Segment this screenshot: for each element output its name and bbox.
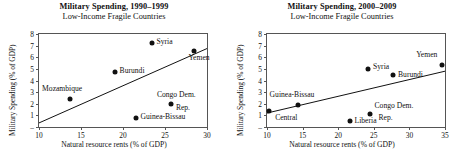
chart-1-y-tick-label: 2 — [17, 99, 34, 108]
chart-2-subtitle: Low-Income Fragile Countries — [228, 12, 456, 22]
chart-2-x-tick-mark — [374, 127, 375, 130]
data-point-central — [267, 108, 272, 113]
chart-2-x-tick-label: 20 — [334, 131, 341, 140]
chart-panel-1990-1999: Military Spending, 1990–1999 Low-Income … — [0, 0, 228, 159]
chart-2-x-tick-label: 30 — [406, 131, 413, 140]
chart-2-y-axis-label: Military Spending (% of GDP) — [236, 44, 245, 136]
chart-1-y-tick-label: 1 — [17, 111, 34, 120]
data-point-label-liberia: Liberia — [355, 117, 377, 125]
data-point-label-yemen: Yemen — [416, 51, 437, 59]
data-point-burundi — [112, 70, 117, 75]
chart-1-y-tick-label: – — [17, 123, 34, 132]
chart-2-x-tick-mark — [409, 127, 410, 130]
data-point-label-guinea-bissau: Guinea-Bissau — [270, 91, 315, 99]
data-point-guinea-bissau — [133, 116, 138, 121]
data-point-syria — [149, 41, 154, 46]
data-point-mozambique — [68, 97, 73, 102]
chart-1-y-axis-label: Military Spending (% of GDP) — [8, 44, 17, 136]
chart-1-x-tick-mark — [165, 127, 166, 130]
data-point-label-burundi: Burundi — [120, 67, 145, 75]
chart-2-y-tick-label: 2 — [245, 99, 262, 108]
chart-1-y-tick-label: 7 — [17, 41, 34, 50]
chart-2-x-axis-label: Natural resource rents (% of GDP) — [228, 140, 456, 149]
chart-2-x-tick-label: 15 — [299, 131, 306, 140]
chart-1-x-tick-label: 25 — [161, 131, 168, 140]
chart-2-y-tick-label: 8 — [245, 30, 262, 39]
chart-2-y-tick-label: 1 — [245, 111, 262, 120]
chart-2-plot-area: –12345678101520253035CentralGuinea-Bissa… — [266, 33, 446, 128]
data-point-label-mozambique: Mozambique — [42, 85, 82, 93]
chart-2-y-tick-label: 7 — [245, 41, 262, 50]
chart-2-y-tick-label: 4 — [245, 76, 262, 85]
chart-1-plot-area: –123456781015202530MozambiqueBurundiSyri… — [38, 33, 208, 128]
data-point-syria — [366, 67, 371, 72]
chart-2-x-tick-mark — [303, 127, 304, 130]
chart-2-y-tick-label: 3 — [245, 88, 262, 97]
data-point-label-congo-dem: Congo Dem. — [157, 91, 196, 99]
figure-container: Military Spending, 1990–1999 Low-Income … — [0, 0, 456, 159]
data-point-label-central: Central — [275, 114, 297, 122]
chart-1-y-tick-label: 4 — [17, 76, 34, 85]
chart-2-x-tick-label: 10 — [263, 131, 270, 140]
chart-1-x-axis-label: Natural resource rents (% of GDP) — [0, 140, 228, 149]
chart-2-y-tick-label: – — [245, 123, 262, 132]
chart-2-x-tick-mark — [445, 127, 446, 130]
chart-1-title: Military Spending, 1990–1999 — [0, 2, 228, 12]
chart-2-titles: Military Spending, 2000–2009 Low-Income … — [228, 2, 456, 22]
data-point-label-burundi: Burundi — [398, 71, 423, 79]
data-point-label-rep: Rep. — [379, 114, 393, 122]
chart-1-subtitle: Low-Income Fragile Countries — [0, 12, 228, 22]
data-point-label-yemen: Yemen — [188, 54, 209, 62]
chart-1-x-tick-mark — [81, 127, 82, 130]
data-point-label-syria: Syria — [373, 63, 389, 71]
chart-1-x-tick-mark — [39, 127, 40, 130]
chart-1-x-tick-label: 20 — [119, 131, 126, 140]
chart-2-x-tick-label: 35 — [441, 131, 448, 140]
chart-2-y-tick-label: 5 — [245, 64, 262, 73]
chart-1-x-tick-label: 15 — [77, 131, 84, 140]
chart-panel-2000-2009: Military Spending, 2000–2009 Low-Income … — [228, 0, 456, 159]
chart-1-x-tick-label: 30 — [203, 131, 210, 140]
chart-1-y-tick-label: 6 — [17, 53, 34, 62]
data-point-congo-dem — [168, 102, 173, 107]
data-point-liberia — [347, 119, 352, 124]
chart-2-title: Military Spending, 2000–2009 — [228, 2, 456, 12]
data-point-label-guinea-bissau: Guinea-Bissau — [141, 113, 186, 121]
data-point-yemen — [440, 62, 445, 67]
chart-2-x-tick-label: 25 — [370, 131, 377, 140]
chart-1-titles: Military Spending, 1990–1999 Low-Income … — [0, 2, 228, 22]
data-point-burundi — [391, 73, 396, 78]
data-point-label-rep: Rep. — [176, 104, 190, 112]
data-point-label-congo-dem: Congo Dem. — [375, 102, 414, 110]
chart-2-y-tick-label: 6 — [245, 53, 262, 62]
chart-2-x-tick-mark — [267, 127, 268, 130]
chart-1-y-tick-label: 8 — [17, 30, 34, 39]
chart-1-y-tick-label: 5 — [17, 64, 34, 73]
chart-2-x-tick-mark — [338, 127, 339, 130]
chart-1-x-tick-label: 10 — [35, 131, 42, 140]
chart-1-x-tick-mark — [123, 127, 124, 130]
chart-1-y-tick-label: 3 — [17, 88, 34, 97]
data-point-guinea-bissau — [295, 102, 300, 107]
data-point-label-syria: Syria — [157, 38, 173, 46]
chart-1-x-tick-mark — [207, 127, 208, 130]
